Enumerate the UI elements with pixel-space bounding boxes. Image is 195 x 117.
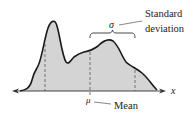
sigma-brace <box>90 30 135 38</box>
mean-label: Mean <box>114 100 139 111</box>
sigma-label: σ <box>109 19 115 30</box>
mu-label: μ <box>85 95 91 105</box>
distribution-diagram: x σ Standard deviation μ Mean <box>0 0 195 117</box>
std-label-line1: Standard <box>145 8 183 19</box>
mean-leader-line <box>94 102 111 104</box>
x-axis-label: x <box>170 85 176 96</box>
sigma-leader-line <box>119 21 142 25</box>
std-label-line2: deviation <box>145 23 185 34</box>
